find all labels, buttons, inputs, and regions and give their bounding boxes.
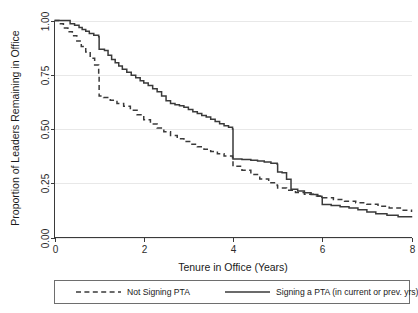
y-tick-label-0: 0.00: [40, 228, 51, 248]
x-tick-label-1: 2: [142, 244, 148, 255]
x-axis-title: Tenure in Office (Years): [178, 261, 288, 273]
y-tick-label-1: 0.25: [40, 173, 51, 193]
chart-legend: Not Signing PTA Signing a PTA (in curren…: [55, 281, 418, 304]
x-tick-label-2: 4: [231, 244, 237, 255]
x-tick-label-3: 6: [320, 244, 326, 255]
y-tick-label-2: 0.50: [40, 119, 51, 139]
y-axis-title: Proportion of Leaders Remaining in Offic…: [9, 30, 21, 225]
survival-curve-chart: 0.000.250.500.751.00 02468 Tenure in Off…: [0, 0, 418, 313]
y-tick-label-3: 0.75: [40, 65, 51, 85]
legend-label-not-signing-pta: Not Signing PTA: [127, 287, 190, 297]
x-tick-label-4: 8: [410, 244, 416, 255]
y-tick-label-4: 1.00: [40, 11, 51, 31]
chart-figure: 0.000.250.500.751.00 02468 Tenure in Off…: [0, 0, 418, 313]
legend-label-signing-pta: Signing a PTA (in current or prev. yrs): [276, 287, 418, 297]
x-tick-label-0: 0: [53, 244, 59, 255]
